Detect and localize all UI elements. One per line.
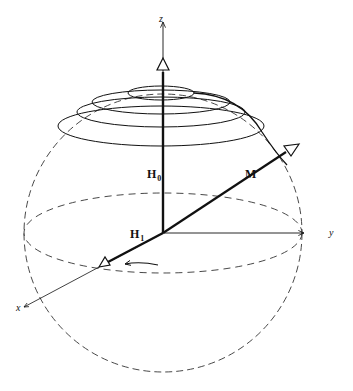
h0-label-main: H [147,167,156,181]
z-axis-label: z [159,14,163,24]
y-axis-label: y [329,228,333,238]
m-vector [163,144,299,233]
precession-rings [58,86,287,165]
h1-label-main: H [130,227,139,241]
h1-label: H1 [130,228,144,243]
rotation-arrow-icon [125,263,158,265]
h0-label-sub: 0 [157,174,161,183]
h1-label-sub: 1 [140,234,144,243]
x-axis-label: x [16,303,20,313]
magnetization-sphere-diagram [0,0,353,391]
h0-label: H0 [147,168,161,183]
m-label: M [245,168,256,180]
